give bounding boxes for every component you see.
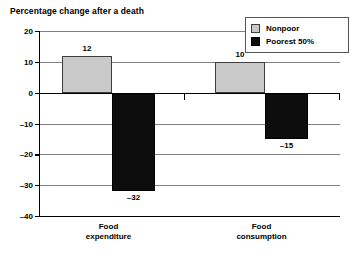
chart-title: Percentage change after a death [10, 6, 144, 16]
gridline--30 [40, 185, 340, 186]
category-label-0: Foodexpenditure [86, 222, 131, 242]
gridline--20 [40, 154, 340, 155]
bar-nonpoor-0 [62, 56, 112, 93]
legend-swatch-poorest [251, 37, 260, 46]
gridline--40 [40, 216, 340, 217]
bar-value-label-poorest-0: –32 [127, 193, 140, 202]
y-axis-label--10: –10 [20, 119, 33, 128]
y-axis-label-0: 0 [29, 88, 33, 97]
category-label-line: expenditure [86, 232, 131, 242]
bar-nonpoor-1 [215, 62, 265, 93]
bar-value-label-poorest-1: –15 [280, 141, 293, 150]
y-axis-label-20: 20 [24, 27, 33, 36]
plot-area: 20100–10–20–30–40 [40, 31, 340, 216]
bar-poorest-0 [112, 93, 155, 192]
bar-value-label-nonpoor-1: 10 [236, 50, 245, 59]
legend-swatch-nonpoor [251, 24, 260, 33]
y-axis-label--40: –40 [20, 212, 33, 221]
zero-line-tick-1 [339, 93, 340, 100]
category-label-line: consumption [236, 232, 286, 242]
y-tick--40 [35, 216, 40, 217]
bar-chart: Percentage change after a death 20100–10… [0, 0, 357, 260]
category-label-1: Foodconsumption [236, 222, 286, 242]
y-axis-label--20: –20 [20, 150, 33, 159]
legend-item-poorest: Poorest 50% [251, 35, 343, 48]
legend-label-nonpoor: Nonpoor [266, 24, 299, 33]
category-label-line: Food [236, 222, 286, 232]
bar-value-label-nonpoor-0: 12 [83, 44, 92, 53]
legend-label-poorest: Poorest 50% [266, 37, 314, 46]
y-axis-line [39, 31, 40, 216]
zero-line-tick-0 [184, 93, 185, 100]
gridline-0 [40, 93, 340, 94]
y-axis-label--30: –30 [20, 181, 33, 190]
category-label-line: Food [86, 222, 131, 232]
bar-poorest-1 [265, 93, 308, 139]
legend: Nonpoor Poorest 50% [245, 17, 349, 53]
legend-item-nonpoor: Nonpoor [251, 22, 343, 35]
y-axis-label-10: 10 [24, 57, 33, 66]
